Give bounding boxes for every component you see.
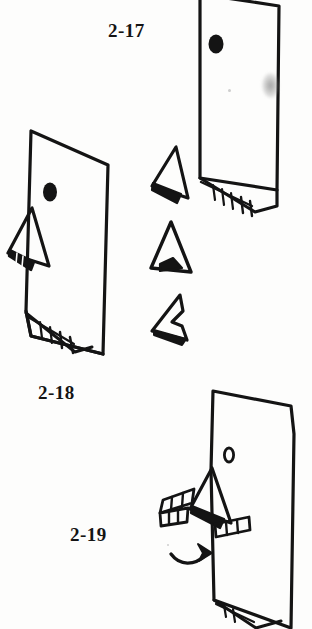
figure-2-18-beak [8, 208, 49, 266]
illustration-page: 2-17 2-18 2-19 [0, 0, 312, 629]
figure-label-2-19: 2-19 [70, 524, 107, 546]
figure-2-19-band-detached [160, 489, 194, 526]
beak-variant-group [151, 147, 191, 345]
figure-2-19-eye [224, 448, 233, 462]
figure-2-17-fringe-line [250, 201, 252, 216]
beak-variant-3-fill [154, 330, 186, 345]
beak-variant-2-notch [160, 258, 182, 271]
beak-variant-3 [152, 295, 187, 340]
figure-2-18-flap-fold [28, 317, 74, 344]
figure-2-19-band-segment [182, 493, 183, 507]
figure-2-19-band-detached-lower [160, 508, 188, 526]
beak-variant-2 [151, 222, 191, 272]
figure-2-18-bottom-flap [26, 313, 92, 352]
figure-2-18-beak-hatch [16, 253, 17, 264]
ink-speck [228, 89, 231, 92]
figure-2-19-beak [190, 468, 231, 523]
figure-2-19-band-segment [226, 522, 227, 535]
figure-2-19-motion-arrow [171, 544, 212, 563]
figure-2-17-fringe-line [222, 189, 224, 205]
beak-variant-1-fill [152, 183, 181, 203]
figure-2-19-fringe-line [233, 609, 235, 622]
figure-2-17-fringe-line [241, 197, 243, 213]
figure-2-19-band-segment [237, 520, 238, 533]
figure-2-17-fringe-line [231, 193, 233, 209]
ink-smudge [262, 73, 279, 98]
beak-variant-1 [152, 147, 188, 198]
figure-2-19-panel [211, 391, 294, 628]
figure-2-19-bottom-flap [214, 600, 281, 628]
figure-2-18-fringe-line [50, 327, 52, 343]
figure-2-17-group [200, 0, 279, 216]
figure-2-18-beak-underside [9, 250, 34, 270]
ink-speck [167, 544, 169, 546]
figure-2-19-group [190, 391, 294, 628]
figure-2-17-bottom-flap [200, 178, 277, 212]
figure-2-18-group [8, 131, 108, 354]
figure-2-17-eye [209, 35, 224, 54]
figure-2-18-panel [26, 131, 108, 354]
figure-label-2-18: 2-18 [38, 382, 75, 404]
figure-2-19-arrow-curve [171, 554, 206, 563]
figure-2-18-beak-hatch [22, 256, 23, 267]
figure-2-19-fringe-line [224, 605, 226, 617]
figure-2-17-flap-fold [201, 182, 252, 206]
figure-label-2-17: 2-17 [108, 20, 145, 42]
figure-2-18-fringe-line [70, 337, 73, 353]
figure-2-18-fringe-line [60, 332, 62, 348]
figure-2-17-fringe-line [213, 185, 215, 200]
figure-2-19-arrow-head [198, 544, 212, 561]
figure-2-18-bottom-edge [26, 311, 103, 354]
figure-2-19-band-segment [171, 497, 172, 510]
figure-2-19-beak-underside [191, 506, 224, 528]
figure-2-19-flap-fold [216, 604, 254, 622]
figure-2-19-band-attached [215, 517, 250, 537]
figure-2-19-band-detached-upper [160, 489, 194, 513]
figure-2-19-band-attached-outline [215, 517, 250, 537]
figure-2-18-eye [43, 183, 57, 202]
figure-2-18-fringe-line [40, 322, 42, 338]
